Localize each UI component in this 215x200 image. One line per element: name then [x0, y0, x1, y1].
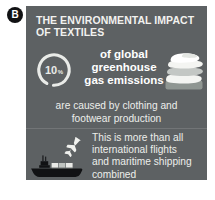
stat-caption-line-1: are caused by clothing and [32, 100, 201, 113]
stat-headline-line-1: of global [78, 48, 170, 61]
donut-value: 10 [45, 65, 57, 76]
comparison-text: This is more than all international flig… [92, 132, 204, 180]
stat-caption: are caused by clothing and footwear prod… [32, 100, 201, 125]
infographic-card: THE ENVIRONMENTAL IMPACT OF TEXTILES 10 … [26, 6, 207, 180]
donut-unit: % [58, 69, 63, 75]
section-badge-b: B [7, 7, 23, 23]
stat-headline-line-3: gas emissions [78, 74, 170, 87]
page-title-line-1: THE ENVIRONMENTAL IMPACT [36, 14, 204, 26]
comparison-text-line-3: and maritime shipping [92, 156, 204, 168]
folded-clothes-stack-icon [163, 50, 205, 94]
donut-chart: 10 % [35, 51, 73, 89]
comparison-text-line-1: This is more than all [92, 132, 204, 144]
stat-caption-line-2: footwear production [32, 113, 201, 126]
donut-value-group: 10 % [35, 51, 73, 89]
airplane-icon [59, 135, 85, 157]
comparison-text-line-4: combined [92, 169, 204, 180]
page-title-line-2: OF TEXTILES [36, 26, 204, 38]
stat-row: 10 % of global greenhouse gas emissions [26, 46, 207, 96]
comparison-section: This is more than all international flig… [26, 129, 207, 180]
page-title: THE ENVIRONMENTAL IMPACT OF TEXTILES [36, 14, 204, 39]
comparison-text-line-2: international flights [92, 144, 204, 156]
cargo-ship-icon [29, 155, 87, 179]
stat-headline: of global greenhouse gas emissions [78, 48, 170, 88]
stat-headline-line-2: greenhouse [78, 61, 170, 74]
